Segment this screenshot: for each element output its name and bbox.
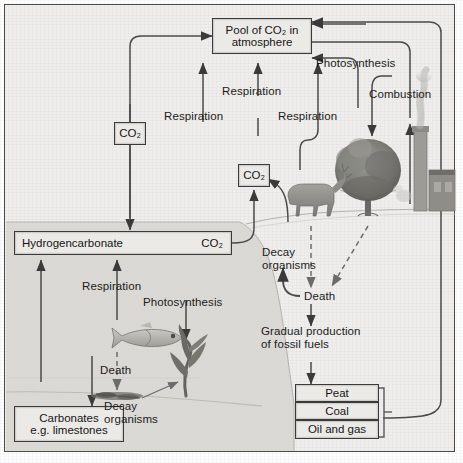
box-co2-left-label: CO₂ <box>119 127 141 140</box>
box-fuel-oil-and-gas-label: Oil and gas <box>308 423 366 436</box>
ground-line <box>246 209 455 228</box>
box-fuel-oil-and-gas[interactable]: Oil and gas <box>295 420 379 439</box>
combustion-smoke <box>393 185 412 202</box>
label-combustion: Combustion <box>369 88 431 101</box>
box-co2-mid-label: CO₂ <box>243 169 265 182</box>
box-fuel-peat[interactable]: Peat <box>295 384 379 402</box>
label-death-land: Death <box>304 290 335 303</box>
label-respiration-left: Respiration <box>164 110 223 123</box>
label-respiration-sea: Respiration <box>82 280 141 293</box>
label-decay-organisms-land: Decay organisms <box>262 246 316 271</box>
arrow-tree-death-dashed <box>332 226 368 286</box>
arrow-co2-mid-from-decay <box>268 179 288 222</box>
box-hydrogencarbonate[interactable]: Hydrogencarbonate CO₂ <box>14 231 232 255</box>
label-photosynthesis-land: Photosynthesis <box>316 57 395 70</box>
label-death-sea: Death <box>100 364 131 377</box>
box-fuel-coal[interactable]: Coal <box>295 402 379 420</box>
box-atmosphere-pool[interactable]: Pool of CO₂ in atmosphere <box>212 18 312 54</box>
box-fuel-coal-label: Coal <box>325 405 349 418</box>
sediment-illustration <box>91 392 143 400</box>
label-decay-organisms-sea: Decay organisms <box>104 400 158 425</box>
label-gradual-production: Gradual production of fossil fuels <box>261 325 361 350</box>
label-respiration-right: Respiration <box>278 110 337 123</box>
arrow-death-to-decay-organisms <box>283 268 300 296</box>
label-photosynthesis-sea: Photosynthesis <box>143 296 222 309</box>
box-co2-mid[interactable]: CO₂ <box>238 164 270 187</box>
fuel-bracket <box>378 388 392 437</box>
label-respiration-mid: Respiration <box>222 85 281 98</box>
hydrogencarbonate-label: Hydrogencarbonate <box>22 237 123 250</box>
hydrogencarbonate-co2-label: CO₂ <box>201 237 223 250</box>
box-carbonates-label: Carbonates e.g. limestones <box>30 412 107 437</box>
box-atmosphere-pool-label: Pool of CO₂ in atmosphere <box>213 24 311 49</box>
box-fuel-peat-label: Peat <box>325 387 349 400</box>
box-co2-left[interactable]: CO₂ <box>114 122 146 145</box>
carbon-cycle-diagram: Pool of CO₂ in atmosphere CO₂ CO₂ Hydrog… <box>0 0 463 463</box>
